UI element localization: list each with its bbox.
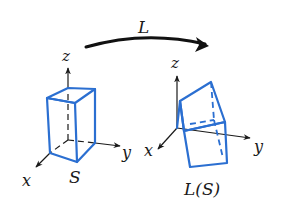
arrowhead-icon xyxy=(195,37,209,52)
y-label-left: y xyxy=(121,143,132,162)
x-label-left: x xyxy=(22,171,31,190)
diagram-svg: L z y x S xyxy=(0,0,286,205)
z-label-left: z xyxy=(61,47,70,65)
box-ls-hidden-horizontal xyxy=(190,120,214,124)
box-ls-hidden-lower xyxy=(214,120,223,158)
box-top-face xyxy=(47,88,95,103)
right-figure: z y x L(S) xyxy=(144,54,264,199)
shape-label-s: S xyxy=(69,167,81,187)
y-axis-hidden-left xyxy=(68,140,95,143)
y-label-right: y xyxy=(253,137,264,156)
curved-arrow-icon xyxy=(86,38,205,47)
y-axis-left xyxy=(95,143,120,146)
x-axis-hidden-left xyxy=(50,140,68,153)
transform-label: L xyxy=(137,17,149,37)
x-label-right: x xyxy=(144,141,153,160)
x-axis-right xyxy=(158,128,177,149)
left-figure: z y x S xyxy=(22,47,132,190)
diagram-canvas: L z y x S xyxy=(0,0,286,205)
box-front-face xyxy=(47,98,77,162)
box-s xyxy=(47,88,95,162)
transform-arrow: L xyxy=(86,17,209,52)
box-ls xyxy=(177,82,227,167)
shape-label-ls: L(S) xyxy=(183,179,220,199)
z-label-right: z xyxy=(170,54,179,72)
x-axis-left xyxy=(36,153,50,167)
